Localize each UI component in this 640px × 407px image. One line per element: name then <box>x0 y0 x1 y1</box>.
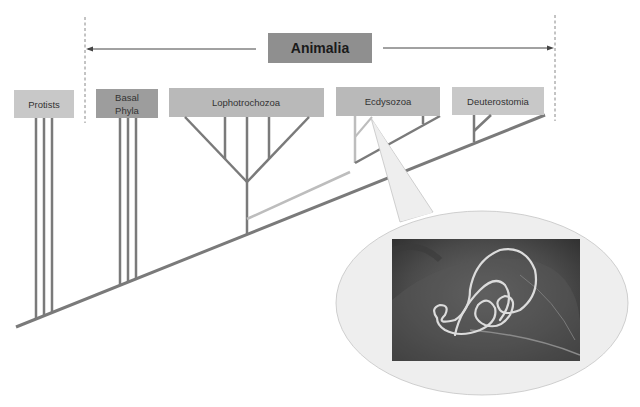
group-label-ecdysozoa: Ecdysozoa <box>365 96 412 107</box>
group-label-protists: Protists <box>28 99 60 110</box>
nematode-photo <box>392 239 580 361</box>
branch <box>247 117 309 182</box>
group-label-basal-phyla-line1: Basal <box>115 92 139 103</box>
highlight-branch-ecdysozoa <box>355 117 372 137</box>
highlight-branch-ecdysozoa <box>247 172 350 219</box>
branch <box>185 117 247 182</box>
animalia-title: Animalia <box>291 40 350 56</box>
arrowhead-right-icon <box>547 46 554 51</box>
phylogenetic-tree: Animalia Protists Basal Phyla Lophotroch… <box>0 0 640 407</box>
group-label-basal-phyla-line2: Phyla <box>115 105 139 116</box>
group-label-lophotrochozoa: Lophotrochozoa <box>212 97 281 108</box>
branch <box>474 115 491 131</box>
group-label-deuterostomia: Deuterostomia <box>467 96 529 107</box>
arrowhead-left-icon <box>86 47 93 52</box>
